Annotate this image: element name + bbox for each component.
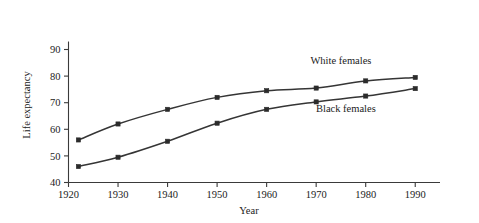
data-point [314, 86, 318, 90]
x-axis-title: Year [239, 205, 259, 216]
series-annotation-black-females: Black females [316, 103, 376, 114]
data-point [413, 75, 417, 79]
x-tick-label-1990: 1990 [405, 189, 426, 200]
y-tick-label-90: 90 [50, 44, 61, 55]
y-axis-tick-labels: 405060708090 [50, 44, 61, 188]
y-tick-label-40: 40 [50, 177, 61, 188]
series-line [78, 89, 415, 167]
x-tick-label-1930: 1930 [108, 189, 129, 200]
data-point [265, 89, 269, 93]
x-axis-tick-labels: 19201930194019501960197019801990 [58, 189, 426, 200]
data-point [215, 121, 219, 125]
data-point [364, 79, 368, 83]
data-point [265, 107, 269, 111]
data-point [76, 138, 80, 142]
y-tick-label-50: 50 [50, 151, 61, 162]
x-tick-label-1940: 1940 [157, 189, 178, 200]
x-tick-label-1960: 1960 [256, 189, 277, 200]
x-axis-ticks [69, 183, 416, 188]
y-tick-label-60: 60 [50, 124, 61, 135]
x-tick-label-1970: 1970 [306, 189, 327, 200]
data-point [215, 95, 219, 99]
life-expectancy-chart: 405060708090 192019301940195019601970198… [0, 0, 479, 223]
data-point [165, 139, 169, 143]
data-point [116, 155, 120, 159]
y-axis-ticks [64, 50, 69, 183]
data-point [165, 107, 169, 111]
series-annotation-white-females: White females [310, 55, 371, 66]
x-tick-label-1980: 1980 [355, 189, 376, 200]
y-tick-label-80: 80 [50, 71, 61, 82]
y-axis-title: Life expectancy [21, 71, 32, 139]
x-tick-label-1920: 1920 [58, 189, 79, 200]
data-point [364, 94, 368, 98]
y-axis-group: 405060708090 [50, 42, 69, 189]
data-point [413, 87, 417, 91]
data-point [76, 164, 80, 168]
x-tick-label-1950: 1950 [207, 189, 228, 200]
series-black-females [76, 87, 417, 169]
x-axis-group: 19201930194019501960197019801990 [58, 183, 440, 201]
data-point [116, 122, 120, 126]
y-tick-label-70: 70 [50, 97, 61, 108]
series-layer [76, 75, 417, 168]
chart-canvas: 405060708090 192019301940195019601970198… [0, 0, 479, 223]
